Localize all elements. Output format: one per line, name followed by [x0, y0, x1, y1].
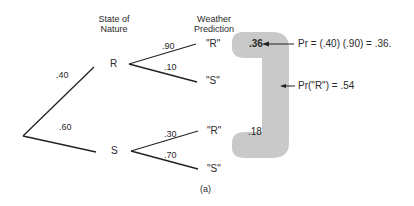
prob-r-s: .10 — [164, 62, 177, 72]
node-state-s: S — [111, 146, 118, 156]
header-line: State of — [94, 14, 134, 24]
prob-r-r: .90 — [162, 41, 175, 51]
branch-root-s — [23, 136, 96, 152]
prediction-r-given-s: "R" — [207, 126, 221, 136]
joint-value-rr: .36 — [249, 39, 263, 49]
prob-s-r: .30 — [164, 129, 177, 139]
prediction-s-given-r: "S" — [206, 76, 220, 86]
prediction-s-given-s: "S" — [207, 164, 221, 174]
highlight-bracket — [232, 32, 289, 158]
prob-s-s: .70 — [164, 150, 177, 160]
prob-root-r: .40 — [56, 70, 69, 80]
joint-value-sr: .18 — [248, 127, 262, 137]
annotation-joint-formula: Pr = (.40) (.90) = .36. — [298, 39, 391, 49]
figure-caption: (a) — [200, 184, 211, 194]
header-weather-prediction: Weather Prediction — [189, 14, 239, 34]
header-line: Nature — [94, 24, 134, 34]
annotation-marginal: Pr("R") = .54 — [298, 81, 354, 91]
header-line: Prediction — [189, 24, 239, 34]
prediction-r-given-r: "R" — [206, 39, 220, 49]
header-line: Weather — [189, 14, 239, 24]
prob-root-s: .60 — [59, 122, 72, 132]
node-state-r: R — [110, 59, 117, 69]
branch-r-s — [129, 64, 197, 82]
header-state-of-nature: State of Nature — [94, 14, 134, 34]
